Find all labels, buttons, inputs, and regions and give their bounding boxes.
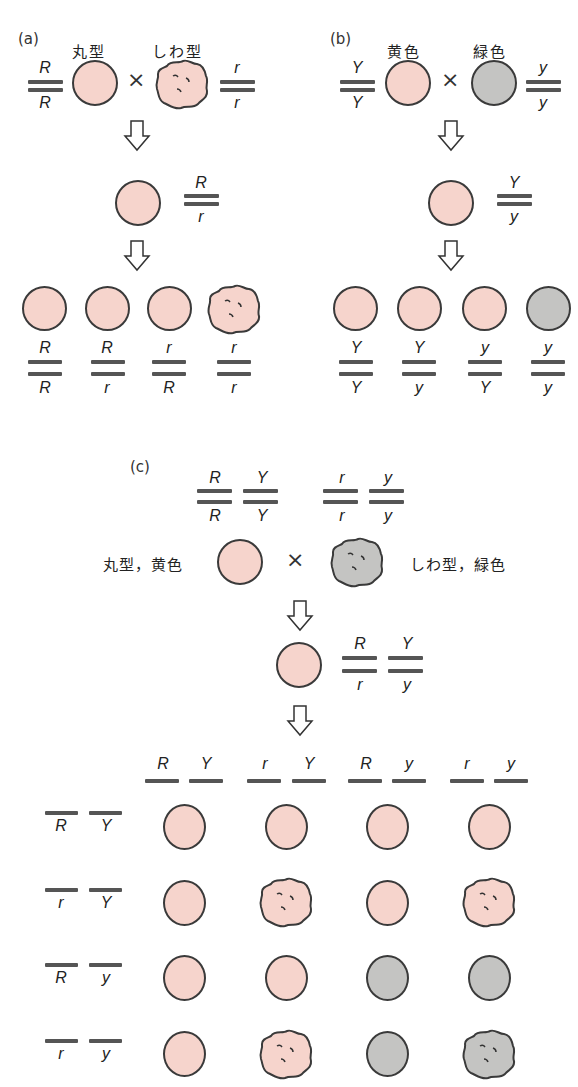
round-yellow-pea <box>115 180 161 226</box>
chromosome-bar <box>220 80 255 84</box>
round-yellow-pea <box>163 804 206 850</box>
panel-b-label: (b) <box>330 30 351 48</box>
allele-label: Y <box>247 508 277 524</box>
wrinkled-yellow-pea <box>259 876 313 928</box>
chromosome-bar <box>89 811 122 815</box>
allele-label: r <box>92 380 122 396</box>
allele-label: r <box>345 677 375 693</box>
gamete-label: r <box>452 756 482 772</box>
gamete-label: R <box>46 818 76 834</box>
chromosome-bar <box>243 489 278 493</box>
allele-label: y <box>373 508 403 524</box>
chromosome-bar <box>217 372 251 376</box>
wrinkled-yellow-pea <box>462 876 516 928</box>
allele-label: R <box>186 175 216 191</box>
chromosome-bar <box>468 372 502 376</box>
chromosome-bar <box>369 489 404 493</box>
allele-label: y <box>528 95 558 111</box>
down-arrow-icon <box>124 240 150 272</box>
panel-b-parent-left-phenotype: 黄色 <box>387 40 421 61</box>
chromosome-bar <box>45 1039 78 1043</box>
round-yellow-pea <box>462 286 507 331</box>
round-yellow-pea <box>265 804 308 850</box>
allele-label: R <box>30 340 60 356</box>
chromosome-bar <box>28 88 63 92</box>
allele-label: R <box>30 95 60 111</box>
cross-symbol: × <box>286 547 304 572</box>
panel-a-parent-left-phenotype: 丸型 <box>72 40 106 61</box>
chromosome-bar <box>28 360 62 364</box>
wrinkled-yellow-pea <box>155 58 209 110</box>
allele-label: Y <box>341 380 371 396</box>
round-yellow-pea <box>163 880 206 926</box>
gamete-label: R <box>351 756 381 772</box>
gamete-label: Y <box>91 818 121 834</box>
chromosome-bar <box>348 779 382 783</box>
allele-label: y <box>470 340 500 356</box>
gamete-label: r <box>250 756 280 772</box>
allele-label: Y <box>341 340 371 356</box>
round-yellow-pea <box>163 1031 206 1077</box>
down-arrow-icon <box>438 120 464 152</box>
down-arrow-icon <box>287 600 313 632</box>
chromosome-bar <box>526 80 561 84</box>
panel-a-label: (a) <box>18 30 39 48</box>
round-yellow-pea <box>72 60 118 106</box>
allele-label: R <box>154 380 184 396</box>
allele-label: R <box>345 636 375 652</box>
panel-c-parent-right-phenotype: しわ型，緑色 <box>410 553 506 574</box>
chromosome-bar <box>342 656 377 660</box>
chromosome-bar <box>197 500 232 504</box>
down-arrow-icon <box>124 120 150 152</box>
chromosome-bar <box>243 500 278 504</box>
chromosome-bar <box>388 669 423 673</box>
down-arrow-icon <box>438 240 464 272</box>
chromosome-bar <box>323 500 358 504</box>
round-yellow-pea <box>217 539 263 585</box>
chromosome-bar <box>184 202 219 206</box>
allele-label: Y <box>342 60 372 76</box>
allele-label: y <box>392 677 422 693</box>
allele-label: r <box>219 380 249 396</box>
round-yellow-pea <box>163 955 206 1001</box>
gamete-label: r <box>46 895 76 911</box>
allele-label: R <box>92 340 122 356</box>
wrinkled-yellow-pea <box>207 283 261 335</box>
round-yellow-pea <box>366 880 409 926</box>
allele-label: r <box>327 508 357 524</box>
chromosome-bar <box>152 360 186 364</box>
chromosome-bar <box>217 360 251 364</box>
chromosome-bar <box>531 372 565 376</box>
wrinkled-green-pea <box>330 536 384 588</box>
allele-label: R <box>200 470 230 486</box>
allele-label: Y <box>499 175 529 191</box>
chromosome-bar <box>89 888 122 892</box>
allele-label: Y <box>470 380 500 396</box>
round-yellow-pea <box>468 804 511 850</box>
round-green-pea <box>526 286 571 331</box>
allele-label: Y <box>342 95 372 111</box>
chromosome-bar <box>526 88 561 92</box>
chromosome-bar <box>392 779 426 783</box>
chromosome-bar <box>342 669 377 673</box>
chromosome-bar <box>497 202 532 206</box>
chromosome-bar <box>152 372 186 376</box>
chromosome-bar <box>388 656 423 660</box>
allele-label: y <box>528 60 558 76</box>
gamete-label: r <box>46 1046 76 1062</box>
round-yellow-pea <box>147 286 192 331</box>
chromosome-bar <box>292 779 326 783</box>
chromosome-bar <box>340 88 375 92</box>
allele-label: r <box>154 340 184 356</box>
wrinkled-green-pea <box>462 1028 516 1080</box>
chromosome-bar <box>45 963 78 967</box>
chromosome-bar <box>247 779 281 783</box>
chromosome-bar <box>89 963 122 967</box>
gamete-label: y <box>91 1046 121 1062</box>
down-arrow-icon <box>287 705 313 737</box>
allele-label: r <box>222 60 252 76</box>
allele-label: y <box>499 209 529 225</box>
allele-label: Y <box>404 340 434 356</box>
gamete-label: y <box>394 756 424 772</box>
round-yellow-pea <box>276 642 322 688</box>
